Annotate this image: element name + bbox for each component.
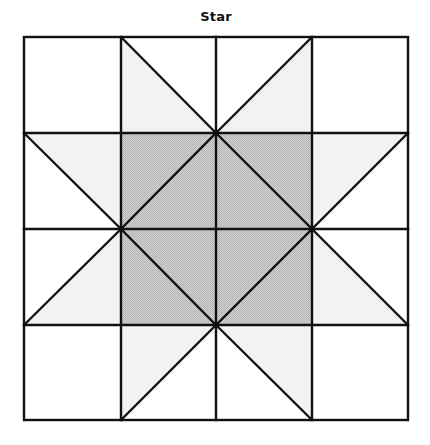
grid-lines bbox=[24, 37, 408, 420]
star-quilt-block bbox=[0, 0, 430, 445]
